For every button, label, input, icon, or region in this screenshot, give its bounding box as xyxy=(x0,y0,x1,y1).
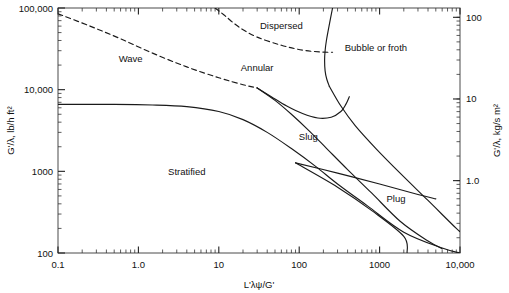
y-tick-label-1: 1000 xyxy=(32,166,53,177)
y-axis-title: G'/λ, lb/h ft² xyxy=(5,106,16,154)
x-tick-label-3: 100 xyxy=(291,259,307,270)
series-wave-stratified-boundary xyxy=(58,104,460,253)
region-label-annular: Annular xyxy=(241,62,274,73)
y-tick-label-3: 100,000 xyxy=(19,3,53,14)
region-label-dispersed: Dispersed xyxy=(260,20,303,31)
x-tick-label-1: 1.0 xyxy=(132,259,145,270)
y-right-tick-label-1: 10 xyxy=(466,93,477,104)
y-right-tick-label-2: 100 xyxy=(466,12,482,23)
region-label-bubble-or-froth: Bubble or froth xyxy=(345,42,407,53)
x-axis-title: L'λψ/G' xyxy=(244,279,275,290)
y-tick-label-2: 10,000 xyxy=(24,84,53,95)
chart-canvas: 0.11.010100100010,000100100010,000100,00… xyxy=(0,0,509,293)
y-right-tick-label-0: 1.0 xyxy=(466,175,479,186)
series-annular-slug-boundary xyxy=(257,88,442,249)
series-annular-lower-boundary xyxy=(257,88,349,118)
x-tick-label-5: 10,000 xyxy=(445,259,474,270)
x-tick-label-4: 1000 xyxy=(369,259,390,270)
region-label-wave: Wave xyxy=(119,53,143,64)
y-tick-label-0: 100 xyxy=(37,248,53,259)
region-label-plug: Plug xyxy=(387,193,406,204)
y-axis-title-right: G'/λ, kg/s m² xyxy=(491,104,502,157)
series-dispersed-boundary-left xyxy=(58,14,257,88)
series-bubble-boundary-vertical xyxy=(325,8,333,86)
series-slug-bubble-boundary xyxy=(329,86,460,231)
flow-regime-chart: 0.11.010100100010,000100100010,000100,00… xyxy=(0,0,509,293)
series-plug-upper-boundary xyxy=(296,163,436,199)
region-label-slug: Slug xyxy=(299,131,318,142)
x-tick-label-0: 0.1 xyxy=(51,259,64,270)
x-tick-label-2: 10 xyxy=(214,259,225,270)
region-label-stratified: Stratified xyxy=(168,166,206,177)
